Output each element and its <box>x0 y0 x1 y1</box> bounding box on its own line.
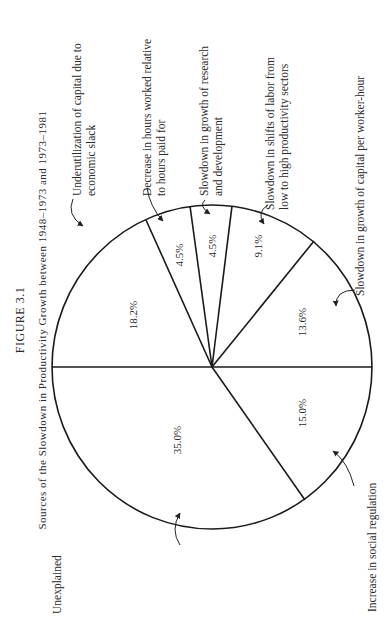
slice-value-capital: 13.6% <box>296 308 308 336</box>
slice-value-hours: 4.5% <box>173 244 185 267</box>
label-unexplained: Unexplained <box>51 555 64 614</box>
arrow-icon <box>336 290 355 306</box>
arrow-icon <box>202 200 210 214</box>
label-underutilization-2: economic slack <box>85 125 97 196</box>
figure-title: Sources of the Slowdown in Productivity … <box>36 110 48 529</box>
figure-number: FIGURE 3.1 <box>13 287 27 353</box>
slice-divider <box>212 241 314 367</box>
label-hours-2: to hours paid for <box>155 119 168 196</box>
slice-value-regulation: 15.0% <box>296 399 308 427</box>
arrow-icon <box>71 199 83 226</box>
pie-chart-figure: FIGURE 3.1 Sources of the Slowdown in Pr… <box>0 0 390 642</box>
label-capital: Slowdown in growth of capital per worker… <box>354 76 367 296</box>
slice-value-underutilization: 18.2% <box>127 301 139 329</box>
label-shifts: Slowdown in shifts of labor from <box>264 57 276 210</box>
label-rd-2: and development <box>212 116 225 196</box>
slice-value-unexplained: 35.0% <box>171 426 183 454</box>
label-rd: Slowdown in growth of research <box>198 46 211 196</box>
label-shifts-2: low to high productivity sectors <box>278 63 291 210</box>
slice-value-rd: 4.5% <box>206 235 218 258</box>
label-hours: Decrease in hours worked relative <box>141 39 153 196</box>
arrow-icon <box>175 513 180 545</box>
slice-value-shifts: 9.1% <box>252 235 264 258</box>
slice-divider <box>212 206 232 367</box>
label-regulation: Increase in social regulation <box>366 482 379 612</box>
slice-divider <box>212 367 305 500</box>
label-underutilization: Underutilization of capital due to <box>71 43 84 196</box>
